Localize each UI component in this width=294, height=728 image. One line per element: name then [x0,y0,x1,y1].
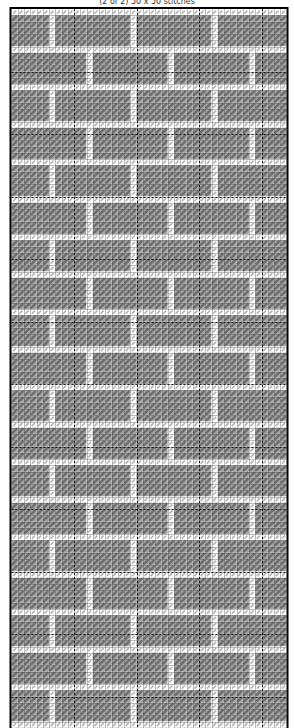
stitch-grid-canvas [0,0,294,728]
pattern-chart-window: (2 of 2) 50 x 50 stitches [0,0,294,728]
